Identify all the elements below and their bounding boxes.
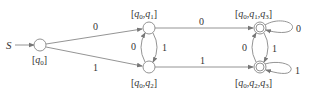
edge-label: 0 — [296, 23, 301, 34]
start-label: S — [6, 39, 12, 51]
edge-q0q2q3-to-q0q1q3: 0 — [242, 33, 256, 62]
state-q0q2: [q0,q2] — [131, 61, 157, 90]
edge-label: 1 — [200, 55, 205, 66]
self-loop-q0q2q3: 1 — [265, 62, 300, 76]
state-label-q0q1: [q0,q1] — [131, 8, 157, 21]
edge-q0q2-to-q0q2q3: 1 — [155, 55, 253, 67]
edge-q0-to-q0q2: 1 — [46, 47, 142, 73]
edge-label: 0 — [242, 42, 247, 53]
state-q0q2q3-accepting: [q0,q2,q3] — [235, 61, 272, 90]
start-arrow: S — [6, 39, 34, 51]
edge-label: 0 — [199, 16, 204, 27]
state-label-q0q1q3: [q0,q1,q3] — [235, 8, 272, 21]
edge-q0-to-q0q1: 0 — [46, 21, 142, 44]
state-label-q0q2q3: [q0,q2,q3] — [235, 77, 272, 90]
edge-q0q1-to-q0q2: 1 — [153, 33, 167, 62]
dfa-diagram: S [q0] [q0,q1] [q0,q2] [q0,q1,q3] [q0,q2… — [0, 0, 309, 97]
edge-label: 1 — [93, 62, 98, 73]
state-q0: [q0] — [32, 39, 47, 67]
state-label-q0q2: [q0,q2] — [131, 77, 157, 90]
state-label-q0: [q0] — [32, 54, 47, 67]
edge-q0q1q3-to-q0q2q3: 1 — [264, 33, 277, 62]
self-loop-q0q1q3: 0 — [265, 21, 301, 34]
edge-label: 1 — [162, 42, 167, 53]
edge-q0q2-to-q0q1: 0 — [131, 33, 145, 62]
edge-label: 0 — [131, 41, 136, 52]
edge-label: 1 — [295, 65, 300, 76]
edge-label: 0 — [93, 21, 98, 32]
edge-label: 1 — [272, 43, 277, 54]
